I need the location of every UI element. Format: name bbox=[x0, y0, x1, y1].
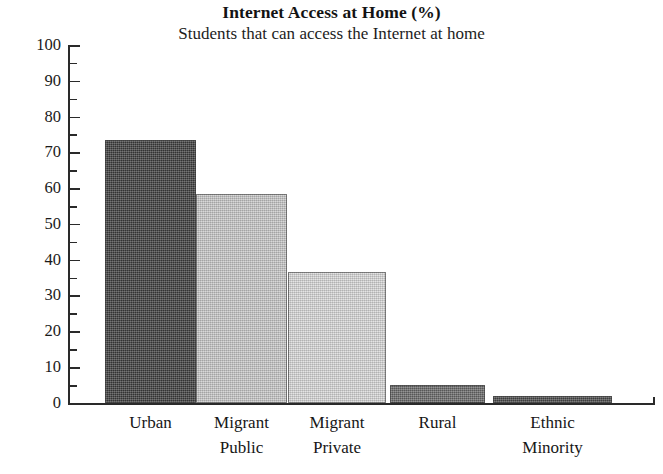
chart-subtitle: Students that can access the Internet at… bbox=[0, 23, 663, 45]
bar bbox=[196, 194, 287, 403]
x-axis-labels: UrbanMigrant PublicMigrant PrivateRuralE… bbox=[68, 410, 655, 472]
chart-title-block: Internet Access at Home (%) Students tha… bbox=[0, 2, 663, 45]
y-axis-tick-label: 0 bbox=[53, 395, 61, 412]
x-axis-category-label: Ethnic Minority bbox=[478, 410, 628, 460]
page-title: Internet Access at Home (%) bbox=[0, 2, 663, 22]
bar bbox=[105, 140, 196, 403]
y-axis-tick-label: 30 bbox=[45, 287, 62, 304]
x-axis-end-tick bbox=[653, 397, 655, 405]
y-axis-tick-label: 70 bbox=[45, 144, 62, 161]
x-axis-line bbox=[68, 403, 655, 405]
y-axis-tick-label: 10 bbox=[45, 359, 62, 376]
bar bbox=[493, 396, 612, 403]
bar-chart-figure: Internet Access at Home (%) Students tha… bbox=[0, 0, 663, 474]
bars-group bbox=[68, 45, 655, 403]
plot-area: 0102030405060708090100 bbox=[68, 45, 655, 405]
y-axis-tick-label: 40 bbox=[45, 251, 62, 268]
y-axis-tick-label: 20 bbox=[45, 323, 62, 340]
bar bbox=[390, 385, 485, 403]
bar bbox=[288, 272, 386, 403]
y-axis-tick-label: 80 bbox=[45, 108, 62, 125]
y-axis-tick-label: 60 bbox=[45, 180, 62, 197]
y-axis-tick-label: 100 bbox=[36, 37, 61, 54]
y-axis-tick-label: 90 bbox=[45, 73, 62, 90]
y-axis-tick-label: 50 bbox=[45, 216, 62, 233]
